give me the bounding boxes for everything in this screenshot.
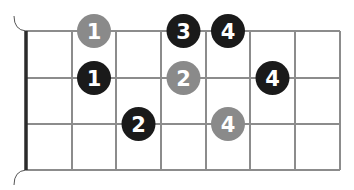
finger-note: 2 (122, 107, 156, 141)
finger-number: 1 (87, 67, 102, 91)
finger-note: 1 (77, 61, 111, 95)
bottom-neck-curve (14, 170, 26, 185)
fret-grid (26, 31, 340, 170)
finger-number: 3 (176, 20, 191, 44)
finger-note: 4 (211, 14, 245, 48)
top-neck-curve (14, 16, 26, 31)
fretboard-diagram: 13412424 (0, 0, 354, 190)
finger-number: 4 (221, 113, 236, 137)
finger-note: 4 (256, 61, 290, 95)
finger-note: 2 (167, 61, 201, 95)
neck-curves (14, 16, 26, 185)
finger-number: 1 (87, 20, 102, 44)
finger-number: 2 (176, 67, 191, 91)
finger-number: 4 (221, 20, 236, 44)
finger-notes: 13412424 (77, 14, 290, 141)
finger-note: 3 (167, 14, 201, 48)
finger-number: 4 (265, 67, 280, 91)
finger-note: 4 (211, 107, 245, 141)
finger-number: 2 (131, 113, 146, 137)
finger-note: 1 (77, 14, 111, 48)
